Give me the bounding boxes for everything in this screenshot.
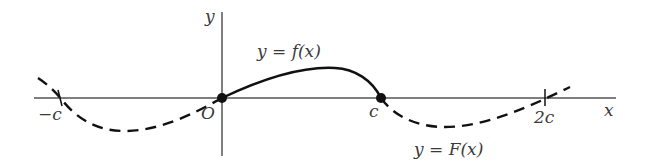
tick-label-c: c [369, 101, 379, 121]
label-f: y = f(x) [256, 41, 321, 61]
curve-F-left [38, 78, 222, 131]
origin-label: O [201, 103, 215, 123]
label-F: y = F(x) [413, 139, 483, 159]
curve-f [222, 68, 381, 98]
tick-label-2c: 2c [533, 107, 555, 127]
x-axis-label: x [604, 100, 614, 120]
function-extension-diagram: y x O −c c 2c y = f(x) y = F(x) [0, 0, 645, 168]
tick-label-neg-c: −c [38, 104, 62, 124]
y-axis-label: y [204, 6, 215, 26]
origin-point [217, 93, 227, 103]
